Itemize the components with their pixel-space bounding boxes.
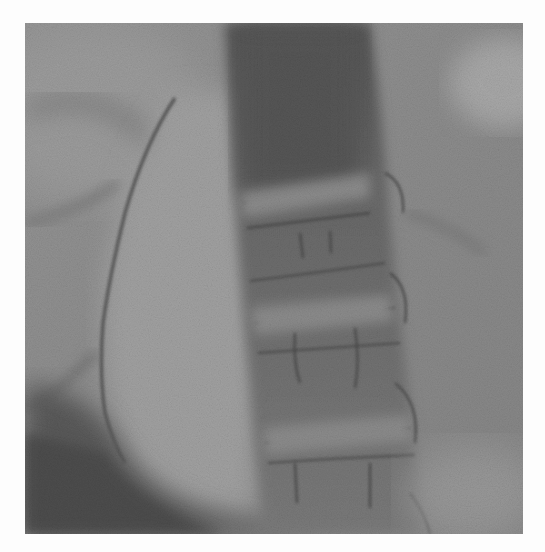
image-caption: Grayscale fluoroscopic radiograph of the… [0, 0, 1, 1]
radiograph-image [25, 23, 523, 534]
radiograph-canvas [25, 23, 523, 534]
page: Grayscale fluoroscopic radiograph of the… [0, 0, 545, 552]
